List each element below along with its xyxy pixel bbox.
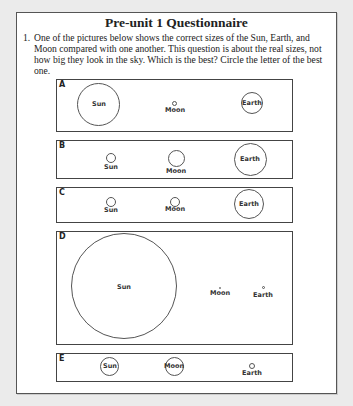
moon-label: Moon: [165, 205, 185, 213]
sun-label: Sun: [103, 362, 117, 370]
option-letter: A: [59, 80, 65, 89]
earth-label: Earth: [240, 155, 260, 163]
page-title: Pre-unit 1 Questionnaire: [17, 15, 336, 31]
questionnaire-page: Pre-unit 1 Questionnaire 1. One of the p…: [16, 12, 337, 394]
moon-label: Moon: [165, 106, 185, 114]
question-number: 1.: [23, 32, 30, 43]
option-a-box[interactable]: A Sun Moon Earth: [56, 79, 293, 132]
moon-label: Moon: [166, 167, 186, 175]
option-letter: C: [59, 188, 65, 197]
earth-label: Earth: [239, 200, 259, 208]
sun-label: Sun: [92, 100, 106, 108]
earth-label: Earth: [253, 291, 273, 299]
option-e-box[interactable]: E Sun Moon Earth: [56, 353, 293, 382]
sun-circle: [106, 153, 116, 163]
option-letter: D: [59, 232, 66, 241]
option-b-box[interactable]: B Sun Moon Earth: [56, 140, 293, 179]
option-letter: E: [59, 354, 64, 363]
earth-label: Earth: [242, 369, 262, 377]
moon-label: Moon: [164, 362, 184, 370]
sun-label: Sun: [104, 163, 118, 171]
moon-circle: [168, 150, 185, 167]
sun-label: Sun: [104, 206, 118, 214]
question-text: One of the pictures below shows the corr…: [34, 32, 333, 76]
moon-label: Moon: [210, 289, 230, 297]
option-letter: B: [59, 141, 65, 150]
question-1: 1. One of the pictures below shows the c…: [23, 32, 333, 76]
sun-label: Sun: [117, 283, 131, 291]
option-d-box[interactable]: D Sun Moon Earth: [56, 231, 293, 345]
earth-circle: [262, 286, 265, 289]
option-c-box[interactable]: C Sun Moon Earth: [56, 187, 293, 223]
earth-label: Earth: [242, 99, 262, 107]
